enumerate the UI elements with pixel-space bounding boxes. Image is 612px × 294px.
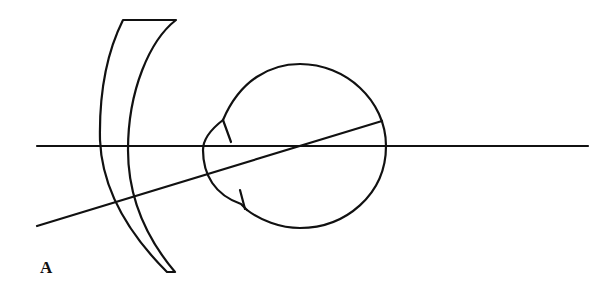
optics-diagram (0, 0, 612, 294)
upper-limbus-mark (223, 120, 231, 142)
panel-label: A (40, 258, 52, 278)
oblique-ray (37, 121, 382, 226)
